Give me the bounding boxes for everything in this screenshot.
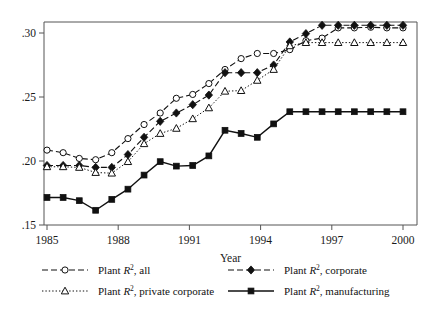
data-point <box>173 95 179 101</box>
x-tick-label: 1997 <box>320 234 343 246</box>
data-point <box>109 197 115 203</box>
series-line-3 <box>47 112 403 211</box>
data-point <box>92 169 99 176</box>
data-point <box>44 195 50 201</box>
legend-item[interactable]: Plant R2, all <box>42 263 150 276</box>
chart-figure: .15.20.25.30198519881991199419972000Year… <box>0 0 434 317</box>
data-point <box>141 121 147 127</box>
x-tick-label: 1988 <box>107 234 130 246</box>
data-point <box>173 125 180 132</box>
data-point <box>238 56 244 62</box>
data-point <box>287 109 293 115</box>
data-point <box>237 87 244 94</box>
legend-label: Plant R2, private corporate <box>98 284 214 297</box>
legend-item[interactable]: Plant R2, private corporate <box>42 284 214 297</box>
data-point <box>157 159 163 165</box>
x-tick-label: 2000 <box>392 234 415 246</box>
data-point <box>190 163 196 169</box>
data-point <box>190 91 196 97</box>
data-point <box>400 109 406 115</box>
data-point <box>368 109 374 115</box>
data-point <box>60 150 66 156</box>
data-point <box>157 130 164 137</box>
series-2 <box>43 39 406 176</box>
plot-frame <box>44 22 417 225</box>
data-point <box>254 134 260 140</box>
data-point <box>206 80 212 86</box>
x-tick-label: 1991 <box>178 234 201 246</box>
series-line-1 <box>47 25 403 167</box>
data-point <box>189 115 196 122</box>
data-point <box>302 30 309 38</box>
data-point <box>157 110 163 116</box>
data-point <box>93 207 99 213</box>
x-axis: 198519881991199419972000Year <box>36 225 415 264</box>
data-point <box>206 153 212 159</box>
data-point <box>319 109 325 115</box>
data-point <box>222 127 228 133</box>
series-line-2 <box>47 43 403 174</box>
data-point <box>140 140 147 147</box>
data-point <box>335 109 341 115</box>
data-point <box>189 101 196 109</box>
data-point <box>125 136 131 142</box>
legend-label: Plant R2, corporate <box>284 263 367 276</box>
data-point <box>254 50 260 56</box>
data-point <box>238 131 244 137</box>
data-point <box>384 109 390 115</box>
y-tick-label: .20 <box>22 155 37 167</box>
y-tick-label: .25 <box>22 91 37 103</box>
plot-border <box>44 22 417 225</box>
data-point <box>109 150 115 156</box>
data-point <box>237 69 244 77</box>
legend-marker <box>248 288 254 294</box>
data-point <box>93 157 99 163</box>
data-point <box>125 186 131 192</box>
line-chart: .15.20.25.30198519881991199419972000Year… <box>0 0 434 317</box>
data-point <box>108 169 115 176</box>
data-point <box>60 195 66 201</box>
legend-item[interactable]: Plant R2, manufacturing <box>228 284 390 297</box>
data-point <box>76 198 82 204</box>
x-tick-label: 1985 <box>36 234 59 246</box>
data-point <box>271 121 277 127</box>
x-tick-label: 1994 <box>249 234 272 246</box>
data-point <box>173 163 179 169</box>
data-point <box>44 147 50 153</box>
chart-legend: Plant R2, allPlant R2, corporatePlant R2… <box>42 263 390 297</box>
data-point <box>141 172 147 178</box>
y-tick-label: .15 <box>22 219 37 231</box>
legend-label: Plant R2, all <box>98 263 150 276</box>
data-point <box>271 50 277 56</box>
data-point <box>303 109 309 115</box>
data-point <box>351 109 357 115</box>
data-point <box>76 155 82 161</box>
y-tick-label: .30 <box>22 27 37 39</box>
data-point <box>254 77 261 84</box>
x-axis-title: Year <box>220 252 241 264</box>
y-axis: .15.20.25.30 <box>22 27 44 231</box>
legend-label: Plant R2, manufacturing <box>284 284 390 297</box>
data-point <box>173 109 180 117</box>
legend-item[interactable]: Plant R2, corporate <box>228 263 367 276</box>
legend-marker <box>62 267 68 273</box>
data-point <box>221 87 228 94</box>
legend-marker <box>247 266 254 274</box>
